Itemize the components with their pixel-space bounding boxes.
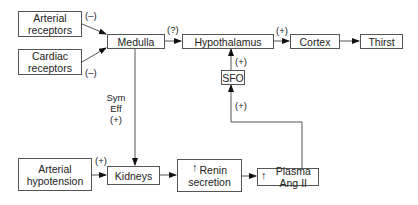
node-label: Plasma Ang II bbox=[269, 165, 319, 189]
edge-label-hypothalamus-cortex: (+) bbox=[276, 25, 288, 36]
node-label: Cortex bbox=[300, 36, 331, 48]
node-cortex: Cortex bbox=[290, 34, 340, 49]
node-label: Medulla bbox=[118, 36, 155, 48]
node-renin-secretion: ↑Renin secretion bbox=[177, 159, 242, 192]
node-label: Hypothalamus bbox=[194, 36, 261, 48]
node-label: SFO bbox=[222, 72, 244, 84]
edge-label-angii-sfo: (+) bbox=[235, 100, 247, 111]
node-cardiac-receptors: Cardiac receptors bbox=[18, 49, 82, 75]
node-label: Thirst bbox=[368, 36, 394, 48]
node-arterial-hypotension: Arterial hypotension bbox=[18, 158, 92, 191]
node-label: Arterial bbox=[38, 163, 71, 175]
node-arterial-receptors: Arterial receptors bbox=[18, 11, 82, 37]
node-kidneys: Kidneys bbox=[107, 166, 160, 185]
edge-label-medulla-hypothalamus: (?) bbox=[167, 24, 179, 35]
edge-label-arterial-medulla: (–) bbox=[85, 10, 97, 21]
node-label: Kidneys bbox=[115, 170, 152, 182]
edge-label-sfo-hypothalamus: (+) bbox=[235, 56, 247, 67]
node-label: Cardiac bbox=[32, 50, 68, 62]
node-label-line2: secretion bbox=[188, 176, 231, 188]
edge-label-sym-eff: Sym Eff (+) bbox=[105, 92, 127, 125]
node-medulla: Medulla bbox=[107, 34, 165, 49]
edge-label-hypotension-kidneys: (+) bbox=[95, 155, 107, 166]
node-plasma-ang-ii: ↑ Plasma Ang II bbox=[257, 168, 319, 186]
node-label: receptors bbox=[28, 24, 72, 36]
up-arrow-icon: ↑ bbox=[261, 169, 267, 181]
node-hypothalamus: Hypothalamus bbox=[182, 34, 274, 49]
node-label: receptors bbox=[28, 62, 72, 74]
edge-label-cardiac-medulla: (–) bbox=[85, 67, 97, 78]
up-arrow-icon: ↑ bbox=[192, 161, 198, 173]
node-sfo: SFO bbox=[221, 70, 245, 85]
node-label: Arterial bbox=[33, 12, 66, 24]
node-thirst: Thirst bbox=[360, 34, 403, 49]
node-label: hypotension bbox=[27, 175, 84, 187]
node-label-line1: ↑Renin bbox=[192, 164, 227, 176]
